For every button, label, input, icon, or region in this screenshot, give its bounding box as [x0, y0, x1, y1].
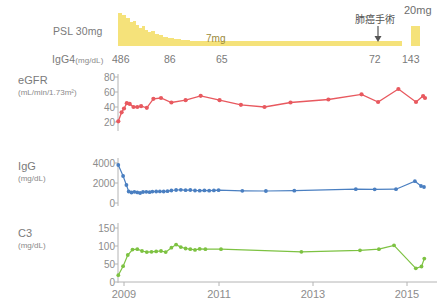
xtick-label: 2015: [387, 288, 427, 300]
xtick-label: 2013: [293, 288, 333, 300]
xtick-label: 2009: [104, 288, 144, 300]
xtick-label: 2011: [199, 288, 239, 300]
c3-plot: [0, 0, 448, 308]
